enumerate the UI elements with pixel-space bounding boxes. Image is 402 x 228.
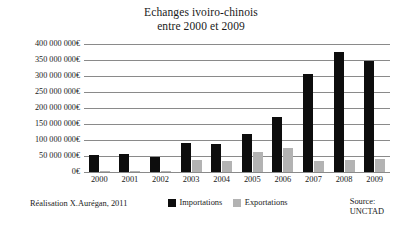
bar-importations	[364, 61, 374, 172]
y-axis-tick-label: 250 000 000€	[0, 88, 80, 96]
y-axis-tick-label: 200 000 000€	[0, 104, 80, 112]
chart-footer: Réalisation X.Aurégan, 2011 Importations…	[0, 196, 402, 228]
bar-group	[115, 44, 146, 172]
bar-exportations	[100, 171, 110, 172]
bar-group	[145, 44, 176, 172]
bar-exportations	[130, 171, 140, 172]
y-axis-tick-label: 350 000 000€	[0, 56, 80, 64]
chart-figure: Echanges ivoiro-chinois entre 2000 et 20…	[0, 0, 402, 228]
bar-importations	[119, 154, 129, 172]
bar-importations	[242, 134, 252, 172]
bar-importations	[272, 117, 282, 172]
bar-importations	[303, 74, 313, 172]
y-axis-tick-label: 50 000 000€	[0, 152, 80, 160]
bar-exportations	[283, 148, 293, 172]
bar-importations	[89, 155, 99, 172]
x-axis-tick-label: 2004	[206, 175, 237, 185]
chart-title: Echanges ivoiro-chinois entre 2000 et 20…	[0, 5, 402, 33]
bar-importations	[211, 144, 221, 172]
bar-exportations	[345, 160, 355, 172]
bar-group	[268, 44, 299, 172]
bar-exportations	[253, 152, 263, 172]
bar-group	[329, 44, 360, 172]
y-axis-labels: 400 000 000€350 000 000€300 000 000€250 …	[0, 44, 80, 172]
bar-group	[359, 44, 390, 172]
x-axis-tick-label: 2003	[176, 175, 207, 185]
y-axis-tick-label: 150 000 000€	[0, 120, 80, 128]
bar-group	[298, 44, 329, 172]
bar-importations	[334, 52, 344, 172]
gridline	[84, 172, 390, 173]
plot-area	[84, 44, 390, 172]
chart-subtitle: entre 2000 et 2009	[0, 19, 402, 33]
legend-swatch-imp	[168, 199, 176, 207]
x-axis-tick-label: 2006	[268, 175, 299, 185]
y-axis-tick-label: 400 000 000€	[0, 40, 80, 48]
source-value: UNCTAD	[350, 207, 384, 217]
legend-item: Exportations	[233, 198, 287, 208]
x-axis-tick-label: 2005	[237, 175, 268, 185]
y-axis-tick-label: 100 000 000€	[0, 136, 80, 144]
chart-title-line1: Echanges ivoiro-chinois	[144, 6, 258, 18]
legend-item: Importations	[168, 198, 222, 208]
source-label: Source:	[350, 197, 384, 207]
credit-text: Réalisation X.Aurégan, 2011	[30, 199, 127, 209]
x-axis-tick-label: 2000	[84, 175, 115, 185]
bar-group	[84, 44, 115, 172]
x-axis-tick-label: 2009	[359, 175, 390, 185]
x-axis-tick-label: 2001	[115, 175, 146, 185]
bar-exportations	[161, 171, 171, 172]
legend-label: Exportations	[245, 198, 288, 208]
x-axis-labels: 2000200120022003200420052006200720082009	[84, 175, 390, 185]
bar-exportations	[375, 159, 385, 172]
x-axis-tick-label: 2007	[298, 175, 329, 185]
bar-exportations	[314, 161, 324, 172]
bar-importations	[150, 157, 160, 172]
bar-exportations	[192, 160, 202, 172]
bar-exportations	[222, 161, 232, 172]
bar-group	[176, 44, 207, 172]
source-text: Source: UNCTAD	[350, 197, 384, 217]
bar-group	[206, 44, 237, 172]
bar-importations	[181, 143, 191, 172]
x-axis-tick-label: 2008	[329, 175, 360, 185]
legend-swatch-exp	[233, 199, 241, 207]
y-axis-tick-label: 300 000 000€	[0, 72, 80, 80]
y-axis-tick-label: 0€	[0, 168, 80, 176]
bar-group	[237, 44, 268, 172]
legend-label: Importations	[180, 198, 223, 208]
x-axis-tick-label: 2002	[145, 175, 176, 185]
chart-legend: ImportationsExportations	[168, 198, 288, 208]
bar-groups	[84, 44, 390, 172]
